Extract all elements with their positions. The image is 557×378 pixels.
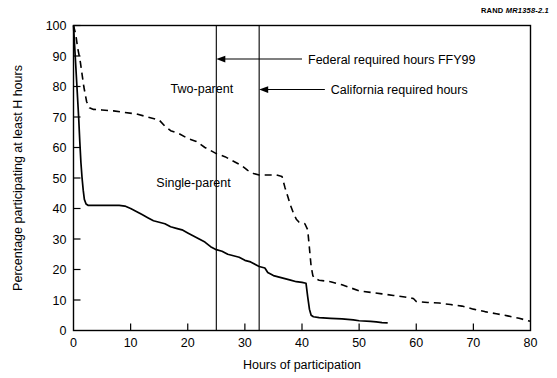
y-axis-tick-label: 50 [53,172,67,186]
annotation-label-federal-required-hours: Federal required hours FFY99 [308,53,475,67]
y-axis-tick-label: 30 [53,233,67,247]
chart-figure: RAND MR1358-2.1 0102030405060708090100 0… [0,0,557,378]
plot-frame [74,26,531,331]
y-axis-tick-label: 90 [53,50,67,64]
annotation-arrowhead-california-required-hours [259,86,268,93]
series-label-single-parent: Single-parent [156,176,231,190]
y-axis-tick-label: 100 [46,19,67,33]
y-axis-tick-label: 70 [53,111,67,125]
source-note-identifier: MR1358-2.1 [506,6,549,15]
data-series-group: Two-parentSingle-parent [74,26,531,323]
participation-line-chart: 0102030405060708090100 01020304050607080… [0,0,557,378]
x-axis-tick-label: 40 [295,336,309,350]
series-line-two-parent [74,26,531,322]
x-axis-tick-label: 20 [181,336,195,350]
y-axis-tick-label: 20 [53,263,67,277]
x-axis-tick-label: 0 [70,336,77,350]
y-axis-tick-label: 80 [53,80,67,94]
x-axis-tick-label: 30 [238,336,252,350]
x-axis-tick-label: 60 [409,336,423,350]
series-label-two-parent: Two-parent [171,82,234,96]
y-axis-title: Percentage participating at least H hour… [11,65,25,291]
y-axis-tick-label: 40 [53,202,67,216]
source-note-bold: RAND [481,6,503,15]
x-axis-title: Hours of participation [243,358,361,372]
x-axis-tick-label: 10 [124,336,138,350]
y-axis-tick-label: 10 [53,294,67,308]
annotation-label-california-required-hours: California required hours [331,83,468,97]
annotation-arrowhead-federal-required-hours [216,56,225,63]
y-axis-tick-label: 0 [60,324,67,338]
x-axis-ticks: 01020304050607080 [70,324,537,350]
x-axis-tick-label: 80 [524,336,538,350]
rand-source-note: RAND MR1358-2.1 [481,6,549,15]
reference-lines-group: Federal required hours FFY99California r… [216,26,475,331]
series-line-single-parent [74,26,388,323]
y-axis-tick-label: 60 [53,141,67,155]
x-axis-tick-label: 50 [352,336,366,350]
x-axis-tick-label: 70 [466,336,480,350]
